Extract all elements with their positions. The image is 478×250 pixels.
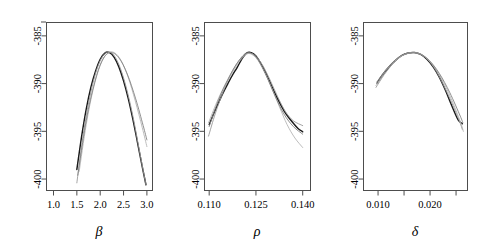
panel-beta-yaxis: -385-390-395-400 [32, 22, 47, 189]
y-tick-label-rho: -395 [190, 122, 201, 141]
y-tick-label-delta: -395 [349, 122, 360, 141]
panel-beta-xaxis: 1.01.52.02.53.0 [47, 191, 154, 210]
y-tick-label-beta: -400 [32, 169, 43, 188]
x-axis-title-delta: δ [412, 224, 419, 239]
y-tick-label-delta: -385 [349, 26, 360, 45]
panel-rho-yaxis: -385-390-395-400 [190, 26, 205, 188]
x-tick-label-beta: 2.0 [94, 199, 107, 210]
profile-likelihood-figure: -385-390-395-400 1.01.52.02.53.0 β -385-… [0, 0, 478, 250]
y-tick-label-rho: -400 [190, 169, 201, 188]
y-tick-label-beta: -385 [32, 26, 43, 45]
x-tick-label-beta: 2.5 [117, 199, 130, 210]
curve-profile-alt-3-delta [377, 53, 463, 123]
panel-beta-svg: -385-390-395-400 1.01.52.02.53.0 β [0, 0, 160, 250]
y-tick-label-rho: -390 [190, 74, 201, 93]
panel-delta-svg: -385-390-395-400 0.0100.020 δ [317, 0, 478, 250]
panel-beta: -385-390-395-400 1.01.52.02.53.0 β [0, 0, 160, 250]
x-tick-label-rho: 0.110 [198, 199, 221, 210]
x-tick-label-delta: 0.020 [418, 199, 442, 210]
y-tick-label-beta: -395 [32, 122, 43, 141]
panel-delta: -385-390-395-400 0.0100.020 δ [317, 0, 478, 250]
panel-rho-curves [209, 52, 303, 147]
panel-delta-curves [376, 52, 463, 131]
x-tick-label-beta: 1.5 [70, 199, 83, 210]
panel-delta-xaxis: 0.0100.020 [366, 191, 456, 210]
panel-rho-svg: -385-390-395-400 0.1100.1250.140 ρ [158, 0, 318, 250]
curve-profile-alt-2-rho [209, 53, 303, 147]
panel-rho: -385-390-395-400 0.1100.1250.140 ρ [158, 0, 318, 250]
curve-profile-alt-2-delta [376, 53, 463, 132]
x-tick-label-rho: 0.140 [291, 199, 315, 210]
x-tick-label-beta: 3.0 [140, 199, 153, 210]
panel-beta-curves [77, 52, 147, 185]
panel-rho-xaxis: 0.1100.1250.140 [198, 191, 315, 210]
curve-profile-alt-2-beta [79, 52, 147, 172]
x-axis-title-beta: β [95, 224, 103, 239]
y-tick-label-delta: -390 [349, 74, 360, 93]
y-tick-label-rho: -385 [190, 26, 201, 45]
y-tick-label-delta: -400 [349, 169, 360, 188]
x-tick-label-beta: 1.0 [47, 199, 60, 210]
x-tick-label-rho: 0.125 [244, 199, 268, 210]
panel-delta-yaxis: -385-390-395-400 [349, 26, 364, 188]
panel-rho-frame [205, 23, 311, 191]
curve-profile-main-delta [377, 52, 462, 123]
x-tick-label-delta: 0.010 [366, 199, 390, 210]
y-tick-label-beta: -390 [32, 74, 43, 93]
x-axis-title-rho: ρ [253, 224, 261, 239]
